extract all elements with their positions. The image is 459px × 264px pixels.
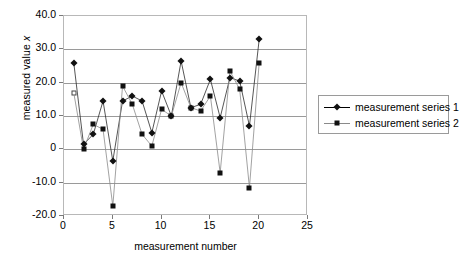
data-point bbox=[91, 122, 96, 127]
data-point bbox=[71, 90, 76, 95]
x-axis-title: measurement number bbox=[63, 240, 308, 252]
chart-legend: measurement series 1 measurement series … bbox=[318, 95, 449, 134]
x-tick-mark bbox=[161, 215, 162, 219]
y-tick-label: 30.0 bbox=[4, 41, 56, 53]
x-tick-mark bbox=[307, 215, 308, 219]
data-point bbox=[218, 170, 223, 175]
y-axis-title-variable: x bbox=[20, 36, 32, 41]
y-tick-label: 20.0 bbox=[4, 75, 56, 87]
data-point bbox=[159, 107, 164, 112]
x-tick-mark bbox=[112, 215, 113, 219]
data-point bbox=[130, 102, 135, 107]
data-point bbox=[188, 105, 193, 110]
y-tick-label: 40.0 bbox=[4, 8, 56, 20]
data-point bbox=[227, 69, 232, 74]
legend-marker-diamond-icon bbox=[324, 102, 350, 112]
data-point bbox=[169, 114, 174, 119]
x-tick-label: 20 bbox=[243, 219, 273, 231]
data-point bbox=[208, 94, 213, 99]
data-point bbox=[247, 185, 252, 190]
legend-item-series-2: measurement series 2 bbox=[324, 115, 459, 131]
data-point bbox=[140, 132, 145, 137]
x-tick-label: 25 bbox=[292, 219, 322, 231]
x-tick-label: 15 bbox=[194, 219, 224, 231]
y-tick-label: 0 bbox=[4, 141, 56, 153]
data-point bbox=[237, 87, 242, 92]
x-tick-label: 0 bbox=[48, 219, 78, 231]
data-point bbox=[149, 144, 154, 149]
data-point bbox=[110, 204, 115, 209]
x-tick-label: 10 bbox=[146, 219, 176, 231]
legend-label-series-1: measurement series 1 bbox=[355, 101, 459, 113]
data-point bbox=[198, 109, 203, 114]
y-tick-label: -10.0 bbox=[4, 175, 56, 187]
legend-marker-square-icon bbox=[324, 118, 350, 128]
x-tick-mark bbox=[63, 215, 64, 219]
series-lines bbox=[64, 16, 308, 216]
data-point bbox=[120, 84, 125, 89]
y-tick-label: 10.0 bbox=[4, 108, 56, 120]
series-line-2 bbox=[74, 63, 259, 206]
data-point bbox=[81, 147, 86, 152]
data-point bbox=[257, 60, 262, 65]
data-point bbox=[179, 80, 184, 85]
legend-item-series-1: measurement series 1 bbox=[324, 99, 459, 115]
legend-label-series-2: measurement series 2 bbox=[355, 117, 459, 129]
x-tick-label: 5 bbox=[97, 219, 127, 231]
plot-area bbox=[63, 15, 307, 215]
x-tick-mark bbox=[209, 215, 210, 219]
data-point bbox=[101, 127, 106, 132]
x-tick-mark bbox=[258, 215, 259, 219]
